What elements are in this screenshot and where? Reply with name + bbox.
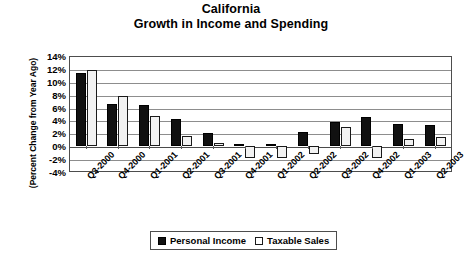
y-axis-tick-labels: 14% 12% 10% 8% 6% 4% 2% 0% -2% -4% (30, 56, 66, 172)
x-tick-mark (245, 146, 246, 149)
y-tick-label: 14% (47, 52, 66, 61)
x-tick-mark (276, 146, 277, 149)
bar-sales (372, 146, 382, 159)
x-tick-mark (340, 146, 341, 149)
bar-sales (214, 143, 224, 146)
bar-income (425, 125, 435, 145)
bar-income (234, 144, 244, 146)
bar-income (76, 73, 86, 146)
y-tick-label: 2% (52, 129, 66, 138)
legend-item-taxable-sales: Taxable Sales (255, 235, 329, 246)
bar-sales (436, 137, 446, 146)
y-tick-label: -2% (49, 155, 66, 164)
x-tick-mark (118, 146, 119, 149)
bar-sales (245, 146, 255, 159)
x-axis-tick-labels: Q3-2000Q4-2000Q1-2001Q2-2001Q3-2001Q4-20… (0, 172, 462, 228)
x-tick-mark (213, 146, 214, 149)
chart-legend: Personal Income Taxable Sales (150, 231, 337, 250)
bar-sales (404, 139, 414, 145)
legend-label: Personal Income (170, 235, 246, 246)
bar-sales (341, 127, 351, 146)
chart-title-block: California Growth in Income and Spending (0, 2, 462, 32)
x-tick-mark (403, 146, 404, 149)
bar-income (298, 132, 308, 146)
chart-title-line-1: California (0, 2, 462, 17)
y-tick-label: 0% (52, 142, 66, 151)
bar-sales (150, 116, 160, 146)
legend-swatch-icon (158, 237, 166, 245)
legend-swatch-icon (255, 237, 263, 245)
y-tick-label: 10% (47, 77, 66, 86)
bar-income (266, 144, 276, 146)
bar-income (203, 133, 213, 146)
x-tick-mark (308, 146, 309, 149)
x-tick-mark (149, 146, 150, 149)
bar-income (107, 104, 117, 146)
legend-label: Taxable Sales (267, 235, 329, 246)
x-tick-mark (86, 146, 87, 149)
bar-income (171, 119, 181, 146)
y-tick-label: 4% (52, 116, 66, 125)
bar-income (393, 124, 403, 146)
bar-income (139, 105, 149, 146)
bar-sales (182, 136, 192, 146)
y-tick-label: 6% (52, 103, 66, 112)
bar-sales (87, 70, 97, 146)
bar-group (70, 57, 102, 171)
y-tick-label: 8% (52, 90, 66, 99)
bar-sales (309, 146, 319, 154)
bar-income (330, 122, 340, 146)
x-tick-mark (435, 146, 436, 149)
x-tick-mark (372, 146, 373, 149)
chart-title-line-2: Growth in Income and Spending (0, 17, 462, 32)
y-tick-label: 12% (47, 64, 66, 73)
bar-sales (118, 96, 128, 146)
bar-income (361, 117, 371, 146)
x-tick-mark (181, 146, 182, 149)
legend-item-personal-income: Personal Income (158, 235, 246, 246)
bar-sales (277, 146, 287, 159)
